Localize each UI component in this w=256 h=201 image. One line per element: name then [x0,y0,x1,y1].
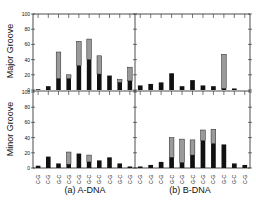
bar-gray-segment [97,56,102,74]
bar-gray-segment [56,52,61,79]
x-tick-label: C-G [45,175,51,184]
bar-dark-segment [138,85,143,90]
bar-dark-segment [190,80,195,90]
x-tick-label: C-G [200,175,206,184]
bar-dark-segment [66,79,71,90]
bar-dark-segment [107,157,112,168]
bar-dark-segment [66,164,71,168]
x-tick-label: C-G [66,175,72,184]
bar-chart [0,0,256,201]
bar-dark-segment [56,163,61,168]
bar-dark-segment [211,86,216,90]
bar-dark-segment [138,166,143,168]
bar-dark-segment [117,163,122,168]
bar-dark-segment [87,162,92,168]
bar-dark-segment [159,162,164,168]
x-tick-label: G-C [231,175,237,184]
x-tick-label: C-G [107,175,113,184]
x-tick-label: C-G [242,175,248,184]
x-tick-label: G-C [117,175,123,184]
x-tick-label: G-C [221,175,227,184]
bar-gray-segment [128,67,133,81]
caption-b-dna: (b) B-DNA [160,185,220,195]
x-tick-label: C-G [179,175,185,184]
bar-dark-segment [222,144,227,168]
bar-gray-segment [211,129,216,143]
bar-dark-segment [107,76,112,90]
x-tick-label: G-C [86,175,92,184]
bar-dark-segment [242,165,247,168]
bar-dark-segment [46,157,51,168]
x-tick-label: G-C [169,175,175,184]
bar-dark-segment [169,157,174,168]
y-tick-label: 60 [14,119,30,125]
bar-dark-segment [77,154,82,168]
bar-dark-segment [128,166,133,168]
bar-gray-segment [87,39,92,60]
bar-dark-segment [77,66,82,90]
bar-dark-segment [56,79,61,90]
bar-dark-segment [148,84,153,90]
bar-gray-segment [201,130,206,141]
bar-dark-segment [201,85,206,90]
x-tick-label: C-G [137,175,143,184]
y-tick-label: 100 [14,11,30,17]
bar-dark-segment [36,89,41,90]
y-tick-label: 80 [14,26,30,32]
caption-a-dna: (a) A-DNA [55,185,115,195]
x-tick-label: C-G [76,175,82,184]
bar-dark-segment [128,81,133,90]
bar-dark-segment [190,155,195,168]
y-tick-label: 20 [14,72,30,78]
figure: Major Groove Minor Groove (a) A-DNA (b) … [0,0,256,201]
bar-dark-segment [169,73,174,90]
bar-gray-segment [66,75,71,79]
bar-dark-segment [180,163,185,168]
bar-gray-segment [169,138,174,158]
bar-gray-segment [180,139,185,163]
y-tick-label: 80 [14,104,30,110]
x-tick-label: C-G [210,175,216,184]
bar-dark-segment [232,88,237,90]
y-tick-label: 0 [14,165,30,171]
bar-dark-segment [148,165,153,168]
bar-dark-segment [159,82,164,90]
y-tick-label: 100 [14,89,30,95]
x-tick-label: G-C [96,175,102,184]
bar-dark-segment [222,88,227,90]
bar-gray-segment [66,152,71,164]
y-tick-label: 40 [14,57,30,63]
x-tick-label: G-C [190,175,196,184]
y-tick-label: 20 [14,150,30,156]
bar-dark-segment [87,60,92,90]
bar-dark-segment [36,166,41,168]
bar-dark-segment [180,86,185,90]
bar-dark-segment [201,141,206,168]
x-tick-label: C-G [127,175,133,184]
bar-gray-segment [190,140,195,155]
x-tick-label: C-G [148,175,154,184]
bar-dark-segment [97,160,102,168]
bar-dark-segment [46,86,51,90]
x-tick-label: G-C [56,175,62,184]
bar-gray-segment [87,155,92,162]
x-tick-label: C-G [35,175,41,184]
bar-dark-segment [117,82,122,90]
x-tick-label: C-G [158,175,164,184]
bar-dark-segment [232,163,237,168]
y-tick-label: 60 [14,41,30,47]
bar-gray-segment [77,41,82,65]
bar-gray-segment [117,79,122,82]
bar-dark-segment [97,74,102,90]
bar-gray-segment [222,54,227,88]
y-tick-label: 40 [14,135,30,141]
bar-dark-segment [211,144,216,168]
